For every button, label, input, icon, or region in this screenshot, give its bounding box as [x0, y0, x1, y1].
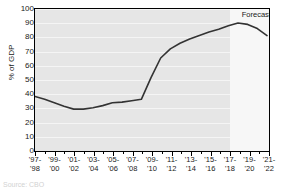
y-axis-tick-label: 50 — [25, 76, 34, 84]
x-axis-minor-tick — [220, 152, 221, 154]
x-axis-minor-tick — [181, 152, 182, 154]
x-axis-minor-tick — [123, 152, 124, 154]
y-axis-tick-label: 60 — [25, 62, 34, 70]
x-tick-line2: '22 — [256, 164, 281, 173]
x-axis-tick-labels: '97-'98'99-'00'01-'02'03-'04'05-'06'07-'… — [0, 155, 281, 179]
x-axis-minor-tick — [45, 152, 46, 154]
y-axis-tick-label: 100 — [21, 5, 34, 13]
y-axis-tick-label: 40 — [25, 90, 34, 98]
plot-inner: Forecasts — [35, 9, 269, 151]
forecasts-annotation: Forecasts — [242, 10, 269, 19]
y-axis-tick-label: 70 — [25, 48, 34, 56]
x-axis-minor-tick — [162, 152, 163, 154]
x-tick-line1: '21- — [256, 155, 281, 164]
debt-line-series — [35, 9, 269, 151]
x-axis-minor-tick — [64, 152, 65, 154]
y-axis-tick-label: 90 — [25, 19, 34, 27]
source-caption: Source: CBO — [3, 181, 44, 188]
x-axis-minor-tick — [84, 152, 85, 154]
y-axis-tick-label: 30 — [25, 104, 34, 112]
x-axis-minor-tick — [259, 152, 260, 154]
y-axis-tick-label: 80 — [25, 33, 34, 41]
x-axis-minor-tick — [201, 152, 202, 154]
plot-area: Forecasts — [34, 8, 270, 152]
x-axis-minor-tick — [142, 152, 143, 154]
x-axis-minor-tick — [240, 152, 241, 154]
x-axis-minor-tick — [103, 152, 104, 154]
x-axis-tick-label: '21-'22 — [256, 155, 281, 173]
y-axis-tick-label: 20 — [25, 119, 34, 127]
y-axis-tick-label: 10 — [25, 133, 34, 141]
chart-figure: % of GDP 0102030405060708090100 Forecast… — [0, 0, 281, 192]
